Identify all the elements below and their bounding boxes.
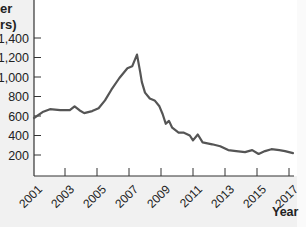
y-tick-label: 600 xyxy=(8,110,29,124)
y-tick-label: 400 xyxy=(8,129,29,143)
x-tick-label: 2013 xyxy=(208,182,237,211)
x-tick-label: 2003 xyxy=(48,182,77,211)
y-tick-label: 200 xyxy=(8,149,29,163)
x-tick-label: 2001 xyxy=(16,182,45,211)
y-axis-title-line1: er xyxy=(0,1,12,16)
x-tick-label: 2015 xyxy=(240,182,269,211)
x-tick-label: 2011 xyxy=(177,182,205,210)
y-tick-label: 1,000 xyxy=(0,71,29,85)
x-tick-label: 2005 xyxy=(80,182,109,211)
y-axis-title-line2: rs) xyxy=(0,17,17,32)
plot-area xyxy=(34,0,297,176)
y-tick-label: 1,200 xyxy=(0,51,29,65)
x-axis-title: Year xyxy=(272,205,299,219)
y-tick-label: 800 xyxy=(8,90,29,104)
y-tick-label: $1,400 xyxy=(0,32,29,46)
x-tick-label: 2007 xyxy=(112,182,141,211)
x-tick-label: 2009 xyxy=(144,182,173,211)
line-chart: er rs) 2004006008001,0001,200$1,400 2001… xyxy=(0,0,306,227)
